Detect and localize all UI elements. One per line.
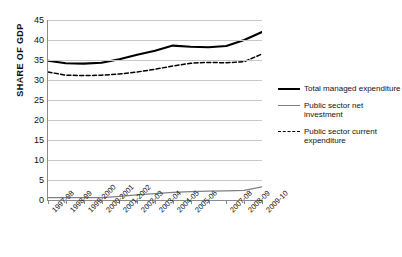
gridline <box>48 180 262 181</box>
gridline <box>48 40 262 41</box>
x-axis-tick <box>48 200 49 204</box>
series-svg <box>48 20 262 200</box>
gridline <box>48 60 262 61</box>
legend-item: Public sector net investment <box>278 101 402 120</box>
series-line <box>48 54 262 76</box>
gridline <box>48 160 262 161</box>
legend-item-label: Total managed expenditure <box>304 84 402 94</box>
legend-swatch-icon <box>278 131 300 132</box>
y-axis-tick-label: 15 <box>0 135 44 145</box>
legend-item: Public sector current expenditure <box>278 127 402 146</box>
y-axis-tick-label: 40 <box>0 35 44 45</box>
y-axis-tick-label: 20 <box>0 115 44 125</box>
gridline <box>48 100 262 101</box>
gridline <box>48 80 262 81</box>
gridline <box>48 120 262 121</box>
x-axis-tick <box>226 200 227 204</box>
y-axis-tick-label: 45 <box>0 15 44 25</box>
legend: Total managed expenditurePublic sector n… <box>278 84 402 153</box>
plot-area <box>48 20 262 200</box>
y-axis-tick-label: 5 <box>0 175 44 185</box>
y-axis-tick-label: 30 <box>0 75 44 85</box>
gridline <box>48 20 262 21</box>
y-axis-tick-label: 10 <box>0 155 44 165</box>
chart-root: SHARE OF GDP 051015202530354045 1997-981… <box>0 0 402 257</box>
y-axis-tick-label: 35 <box>0 55 44 65</box>
series-line <box>48 32 262 64</box>
legend-item-label: Public sector net investment <box>304 101 402 120</box>
legend-item: Total managed expenditure <box>278 84 402 94</box>
legend-swatch-icon <box>278 105 300 106</box>
y-axis-tick-label: 25 <box>0 95 44 105</box>
legend-swatch-icon <box>278 88 300 90</box>
gridline <box>48 140 262 141</box>
y-axis-tick-label: 0 <box>0 195 44 205</box>
legend-item-label: Public sector current expenditure <box>304 127 402 146</box>
